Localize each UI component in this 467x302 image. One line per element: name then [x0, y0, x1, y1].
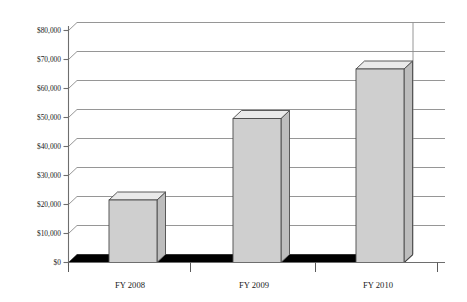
x-axis-label-fy-2009: FY 2009 — [239, 280, 269, 290]
x-axis — [69, 263, 446, 273]
gridline-70000 — [69, 52, 446, 60]
y-axis-label-40000: $40,000 — [37, 142, 61, 151]
bar-fy-2008[interactable] — [109, 192, 166, 263]
bar-fy-2008-front — [109, 200, 157, 263]
y-axis-label-20000: $20,000 — [37, 200, 61, 209]
y-axis-label-0: $0 — [54, 258, 62, 267]
chart-canvas: $80,000 $70,000 $60,000 $50,000 $40,000 … — [0, 0, 467, 302]
x-axis-label-fy-2008: FY 2008 — [115, 280, 145, 290]
y-axis-label-70000: $70,000 — [37, 55, 61, 64]
bar-fy-2010-side — [404, 61, 413, 263]
bar-fy-2009-front — [233, 119, 281, 263]
x-axis-labels: FY 2008 FY 2009 FY 2010 — [115, 280, 393, 290]
bar-fy-2010[interactable] — [356, 61, 413, 263]
y-axis-label-80000: $80,000 — [37, 26, 61, 35]
bar-chart: $80,000 $70,000 $60,000 $50,000 $40,000 … — [0, 0, 467, 302]
x-axis-label-fy-2010: FY 2010 — [363, 280, 393, 290]
gridline-80000 — [69, 23, 446, 31]
bar-fy-2008-top — [109, 192, 166, 200]
bar-fy-2009-top — [233, 111, 290, 119]
bar-fy-2009[interactable] — [233, 111, 290, 263]
y-axis-label-30000: $30,000 — [37, 171, 61, 180]
y-axis-label-50000: $50,000 — [37, 113, 61, 122]
bar-fy-2010-top — [356, 61, 413, 69]
y-axis-label-60000: $60,000 — [37, 84, 61, 93]
bar-fy-2008-side — [157, 192, 166, 263]
y-axis-label-10000: $10,000 — [37, 229, 61, 238]
bar-fy-2010-front — [356, 69, 404, 263]
y-axis — [64, 26, 69, 266]
y-axis-labels: $80,000 $70,000 $60,000 $50,000 $40,000 … — [37, 26, 61, 267]
bar-fy-2009-side — [281, 111, 290, 263]
